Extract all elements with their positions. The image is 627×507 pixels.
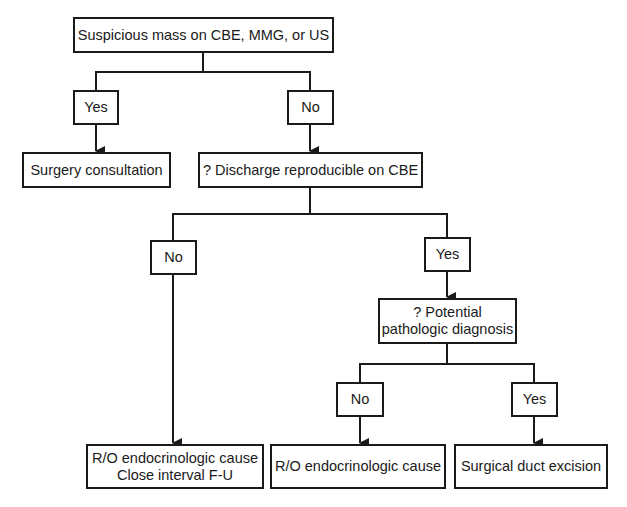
node-surgical-duct-excision: Surgical duct excision (454, 444, 608, 489)
node-label: Surgical duct excision (461, 458, 601, 475)
node-label: Surgery consultation (30, 162, 162, 179)
node-label-line1: R/O endocrinologic cause (92, 450, 258, 467)
node-no-discharge: No (150, 240, 197, 275)
node-no-mass: No (287, 90, 334, 125)
node-endocrinologic-close-followup: R/O endocrinologic cause Close interval … (86, 444, 264, 489)
node-label: ? Discharge reproducible on CBE (203, 162, 418, 179)
node-label-line1: ? Potential (413, 304, 482, 321)
node-label: No (301, 99, 320, 116)
node-no-pathologic: No (336, 382, 384, 417)
node-label: Suspicious mass on CBE, MMG, or US (78, 27, 329, 44)
node-label: Yes (84, 99, 108, 116)
node-surgery-consultation: Surgery consultation (22, 152, 171, 188)
node-label: No (164, 249, 183, 266)
node-label: Yes (523, 391, 547, 408)
node-label: No (351, 391, 370, 408)
node-label: R/O endocrinologic cause (275, 458, 441, 475)
node-label-line2: pathologic diagnosis (382, 321, 513, 338)
node-suspicious-mass: Suspicious mass on CBE, MMG, or US (73, 17, 334, 53)
connector-lines (0, 0, 627, 507)
node-potential-pathologic-diagnosis: ? Potential pathologic diagnosis (378, 298, 517, 344)
node-yes-discharge: Yes (424, 237, 471, 272)
node-endocrinologic-cause: R/O endocrinologic cause (270, 444, 446, 489)
node-label-line2: Close interval F-U (117, 467, 233, 484)
node-yes-pathologic: Yes (511, 382, 558, 417)
node-yes-mass: Yes (73, 90, 119, 125)
node-label: Yes (436, 246, 460, 263)
node-discharge-reproducible: ? Discharge reproducible on CBE (198, 152, 423, 188)
